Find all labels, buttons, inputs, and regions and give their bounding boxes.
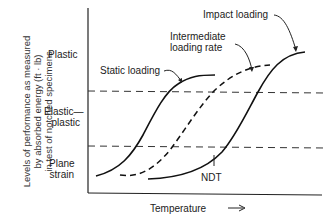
intermediate-callout-arrowhead-icon [249, 67, 254, 72]
plastic-boundary-line [88, 91, 326, 93]
region-label-plane-line-1: Plane [49, 158, 75, 169]
region-label-plastic: Plastic [48, 49, 77, 60]
impact-callout-arrowhead-icon [293, 46, 298, 52]
series-label-intermediate-line-2: loading rate [170, 42, 226, 53]
region-label-plane-strain: Plane strain [49, 158, 75, 180]
region-label-elastic-plastic: Elastic— plastic [44, 106, 83, 128]
plane-strain-boundary-line [88, 146, 326, 148]
y-axis-label-line-1: Levels of performance as measured [21, 17, 32, 207]
intermediate-callout-arrow-icon [235, 44, 252, 70]
y-axis-label-line-2: by absorbed energy (ft · lb) [32, 17, 43, 207]
series-label-intermediate: Intermediate loading rate [170, 31, 226, 53]
static-loading-curve [96, 75, 215, 176]
x-axis [88, 193, 322, 195]
x-axis-label: Temperature [150, 203, 206, 214]
impact-callout-arrow-icon [274, 15, 296, 50]
ndt-label: NDT [201, 172, 222, 183]
intermediate-loading-curve [120, 65, 270, 176]
series-label-intermediate-line-1: Intermediate [170, 31, 226, 42]
series-label-impact: Impact loading [203, 9, 268, 20]
series-label-static: Static loading [100, 65, 160, 76]
region-label-plane-line-2: strain [49, 169, 75, 180]
region-label-elastic-line-2: plastic [44, 117, 83, 128]
region-label-elastic-line-1: Elastic— [44, 106, 83, 117]
